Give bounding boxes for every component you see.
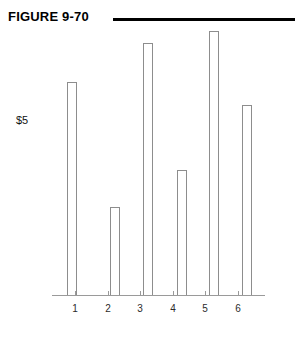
bar-2: [110, 207, 120, 295]
y-axis-reference-label: $5: [16, 114, 28, 126]
bar-4: [177, 170, 187, 295]
x-tick-1: [75, 291, 76, 296]
bar-3: [143, 43, 153, 295]
x-tick-label-5: 5: [198, 303, 212, 314]
bar-chart: $5 123456: [0, 0, 305, 337]
x-tick-2: [108, 291, 109, 296]
x-tick-label-2: 2: [101, 303, 115, 314]
x-tick-3: [140, 291, 141, 296]
x-tick-label-1: 1: [68, 303, 82, 314]
figure-page: FIGURE 9-70 $5 123456: [0, 0, 305, 337]
bar-5: [209, 31, 219, 295]
x-tick-4: [173, 291, 174, 296]
x-tick-label-3: 3: [133, 303, 147, 314]
bar-6: [242, 105, 252, 295]
x-tick-label-4: 4: [166, 303, 180, 314]
x-tick-label-6: 6: [231, 303, 245, 314]
x-tick-5: [205, 291, 206, 296]
bar-1: [67, 82, 77, 295]
x-tick-6: [238, 291, 239, 296]
x-axis-line: [52, 295, 265, 296]
